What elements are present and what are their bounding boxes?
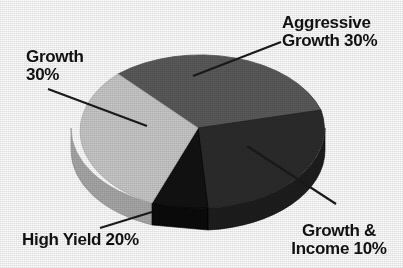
pie-label-high-yield: High Yield 20% [22, 231, 192, 249]
pie-label-aggressive-growth: Aggressive Growth 30% [282, 14, 402, 50]
chart-canvas: Aggressive Growth 30% Growth 30% High Yi… [0, 0, 403, 268]
pie-label-growth-income: Growth & Income 10% [277, 222, 401, 258]
pie-label-growth: Growth 30% [26, 48, 136, 84]
